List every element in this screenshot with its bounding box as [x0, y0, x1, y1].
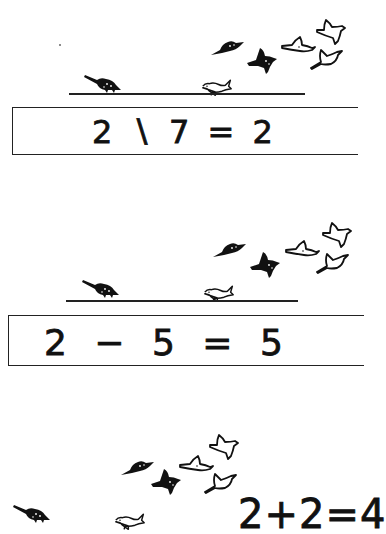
dark-bird-icon: [210, 38, 246, 58]
wire-line: [66, 300, 298, 302]
equation-text: 2 ∖ 7 = 2: [92, 113, 277, 151]
dark-bird-icon: [12, 501, 52, 525]
dark-bird-icon: [81, 276, 121, 300]
dark-bird-icon: [249, 250, 281, 280]
panel-2: 2 − 5 = 5: [0, 200, 368, 380]
light-bird-icon: [112, 511, 148, 531]
light-bird-icon: [203, 470, 237, 494]
light-bird-icon: [315, 250, 349, 274]
dark-bird-icon: [212, 240, 248, 260]
equation-text: 2+2=4: [238, 491, 386, 534]
scan-speck: [59, 44, 61, 46]
light-bird-icon: [314, 18, 346, 46]
panel-3: 2+2=4: [0, 400, 368, 521]
light-bird-icon: [207, 433, 239, 461]
equation-text: 2 − 5 = 5: [44, 322, 291, 363]
panel-1: 2 ∖ 7 = 2: [0, 0, 368, 170]
light-bird-icon: [320, 221, 352, 249]
light-bird-icon: [309, 46, 343, 70]
dark-bird-icon: [246, 46, 278, 76]
dark-bird-icon: [83, 71, 123, 95]
wire-line: [69, 93, 305, 95]
